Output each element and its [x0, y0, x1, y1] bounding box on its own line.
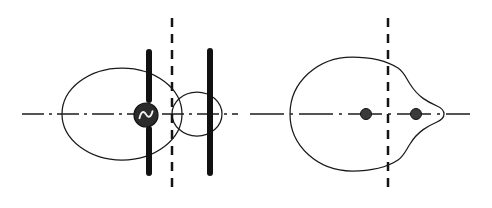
figure-root	[0, 0, 492, 208]
ac-source-symbol	[134, 103, 158, 127]
figure-background	[0, 0, 492, 208]
charge-dot-right	[411, 109, 422, 120]
figure-canvas	[0, 0, 492, 208]
charge-dot-left	[361, 109, 372, 120]
